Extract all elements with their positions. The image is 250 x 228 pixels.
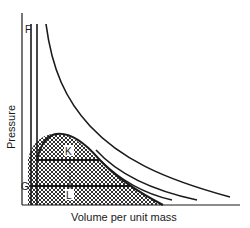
label-G: G <box>21 181 29 192</box>
label-F: F <box>25 24 31 35</box>
label-L: L <box>66 190 72 201</box>
pv-diagram: F G K L Volume per unit mass Pressure <box>0 0 250 228</box>
label-K: K <box>65 146 72 157</box>
x-axis-title: Volume per unit mass <box>71 211 177 223</box>
y-axis-title: Pressure <box>5 105 17 149</box>
